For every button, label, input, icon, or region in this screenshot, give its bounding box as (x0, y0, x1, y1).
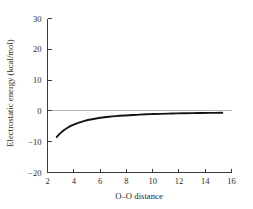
x-tick-label: 8 (124, 176, 128, 186)
y-tick-label: 20 (33, 44, 42, 54)
series-electrostatic-energy (57, 113, 223, 137)
y-tick-label: −20 (28, 168, 41, 178)
y-tick-label: −10 (28, 137, 41, 147)
y-tick-label: 0 (37, 106, 41, 116)
x-tick-label: 6 (98, 176, 102, 186)
chart-plot-area: −20−100102030 246810121416 O–O distance … (0, 0, 253, 209)
x-axis-title: O–O distance (115, 191, 163, 201)
x-tick-label: 4 (72, 176, 77, 186)
x-tick-label: 2 (45, 176, 49, 186)
x-tick-label: 10 (148, 176, 157, 186)
chart-axes (48, 19, 232, 173)
y-tick-label: 30 (33, 14, 42, 24)
data-series-curve (57, 113, 223, 137)
y-axis-tick-labels: −20−100102030 (28, 14, 41, 178)
x-tick-label: 14 (201, 176, 210, 186)
x-axis-tick-labels: 246810121416 (45, 176, 235, 186)
chart-tick-marks (48, 19, 232, 173)
y-axis-title: Electrostatic energy (kcal/mol) (5, 39, 15, 147)
chart-figure: −20−100102030 246810121416 O–O distance … (0, 0, 253, 209)
y-tick-label: 10 (33, 75, 42, 85)
x-tick-label: 16 (227, 176, 236, 186)
x-tick-label: 12 (175, 176, 184, 186)
